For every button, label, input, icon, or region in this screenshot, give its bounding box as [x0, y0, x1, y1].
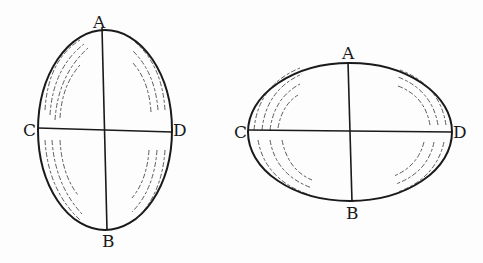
- ellipsoid-diagram: A B C D A B C D: [0, 0, 483, 263]
- vertical-axis-AB: [102, 28, 107, 230]
- label-A: A: [341, 43, 355, 63]
- label-C: C: [23, 120, 36, 140]
- label-D: D: [173, 120, 187, 140]
- label-C: C: [234, 122, 247, 142]
- horizontal-axis-CD: [248, 130, 452, 132]
- label-A: A: [92, 12, 106, 32]
- label-B: B: [346, 203, 359, 223]
- label-B: B: [102, 231, 115, 251]
- vertical-axis-AB: [348, 62, 352, 202]
- figure-prolate: A B C D: [23, 12, 187, 251]
- label-D: D: [453, 122, 467, 142]
- figure-oblate: A B C D: [234, 43, 467, 223]
